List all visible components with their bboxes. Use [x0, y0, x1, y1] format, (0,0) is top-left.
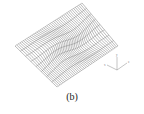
axes-triad	[107, 57, 127, 70]
x-axis-label: x	[104, 63, 106, 67]
figure-caption: (b)	[0, 91, 144, 102]
x-axis-line	[107, 65, 117, 70]
y-axis-label: y	[116, 53, 118, 57]
z-axis-label: z	[128, 60, 130, 64]
surface-mesh	[15, 3, 118, 87]
z-axis-line	[117, 63, 127, 70]
